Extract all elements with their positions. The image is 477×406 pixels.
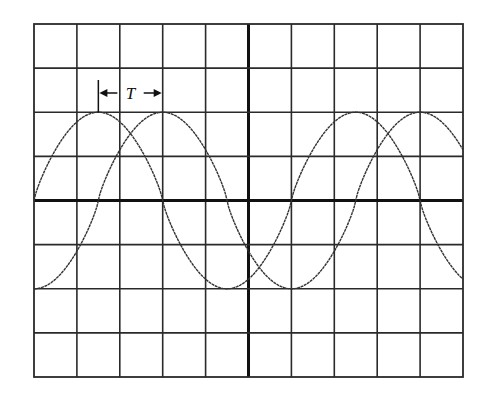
oscilloscope-screen: T	[0, 0, 477, 406]
graticule-grid	[34, 24, 463, 377]
period-annotation: T	[98, 80, 161, 112]
period-label: T	[126, 84, 137, 103]
right-arrow-icon	[154, 89, 162, 97]
left-arrow-icon	[99, 89, 107, 97]
